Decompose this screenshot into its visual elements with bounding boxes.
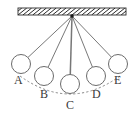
pendulum-bob-c [61,75,80,94]
pendulum-string-e [72,16,111,57]
pendulum-bob-a [12,55,31,74]
pendulum-bob-d [87,67,106,86]
pendulum-bob-e [109,55,128,74]
bob-label-b: B [40,87,48,101]
pendulum-string-b [48,16,72,67]
hatch-line [126,8,135,15]
ceiling-group [13,8,140,15]
pivot-point-dot [70,14,74,18]
pendulum-bob-b [35,67,54,86]
bob-label-e: E [114,73,121,87]
pendulum-string-d [72,16,92,67]
pendulum-string-c [70,16,72,75]
bob-label-a: A [14,73,23,87]
pendulum-diagram: ABCDE [0,0,140,116]
pendulum-bobs [12,55,128,94]
hatch-line [131,8,140,15]
pendulum-string-a [28,16,72,57]
pendulum-strings [28,16,112,75]
pendulum-figure: ABCDE [0,0,140,116]
bob-label-d: D [92,87,101,101]
bob-label-c: C [66,98,74,112]
